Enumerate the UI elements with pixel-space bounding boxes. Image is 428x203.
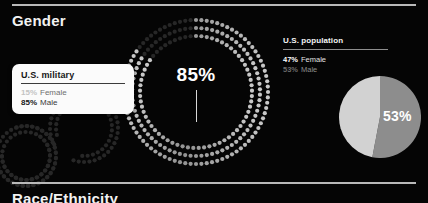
tooltip-female-pct: 15%: [21, 88, 37, 97]
legend-row-male: 53%Male: [283, 65, 393, 75]
stray-dots: [0, 112, 132, 202]
pie-slice-label: 53%: [383, 108, 412, 124]
section-divider-top: [12, 4, 416, 6]
tooltip-male-pct: 85%: [21, 98, 37, 107]
legend-rule: [283, 49, 388, 50]
tooltip-row-female: 15%Female: [21, 88, 125, 98]
population-gender-pie-chart[interactable]: 53%: [339, 76, 421, 158]
donut-leader-line: [196, 90, 197, 122]
tooltip-rule: [21, 83, 125, 84]
tooltip-female-label: Female: [40, 88, 67, 97]
military-gender-donut-chart[interactable]: 85%: [118, 14, 274, 170]
legend-female-pct: 47%: [283, 55, 298, 64]
tooltip-row-male: 85%Male: [21, 98, 125, 108]
legend-male-label: Male: [301, 65, 317, 74]
page-title: Gender: [12, 12, 66, 29]
donut-overflow-arcs: [0, 112, 122, 192]
population-legend: U.S. population 47%Female 53%Male: [283, 36, 393, 75]
legend-female-label: Female: [301, 55, 326, 64]
legend-male-pct: 53%: [283, 65, 298, 74]
tooltip-male-label: Male: [40, 98, 57, 107]
tooltip-title: U.S. military: [21, 70, 125, 80]
legend-title: U.S. population: [283, 36, 393, 45]
next-section-title: Race/Ethnicity: [12, 190, 118, 203]
section-divider-bottom: [12, 182, 416, 184]
donut-center-value: 85%: [118, 64, 274, 86]
military-tooltip-card[interactable]: U.S. military 15%Female 85%Male: [12, 64, 134, 114]
legend-row-female: 47%Female: [283, 55, 393, 65]
